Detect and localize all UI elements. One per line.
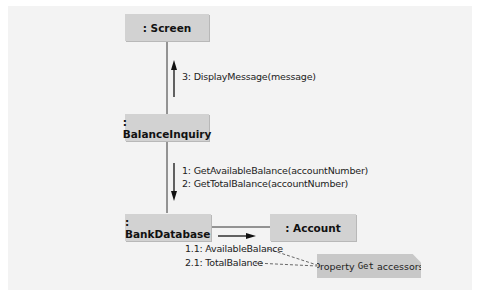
object-balance-inquiry-label: : BalanceInquiry <box>123 116 212 140</box>
message-1-1-label: 1.1: AvailableBalance <box>185 243 283 254</box>
object-balance-inquiry[interactable]: : BalanceInquiry <box>125 114 209 141</box>
note-suffix: accessors <box>377 261 424 272</box>
object-account[interactable]: : Account <box>270 214 356 241</box>
object-bank-database[interactable]: : BankDatabase <box>125 214 211 241</box>
object-bank-database-label: : BankDatabase <box>125 216 211 240</box>
note-prefix: Property <box>314 261 354 272</box>
object-screen[interactable]: : Screen <box>125 14 209 41</box>
object-account-label: : Account <box>285 222 341 234</box>
message-3-label: 3: DisplayMessage(message) <box>182 71 316 82</box>
message-2-1-label: 2.1: TotalBalance <box>185 257 263 268</box>
note-code: Get <box>358 261 374 271</box>
message-1-label: 1: GetAvailableBalance(accountNumber) <box>182 165 368 176</box>
object-screen-label: : Screen <box>143 22 192 34</box>
note-property-get-accessors: Property Get accessors <box>317 254 421 278</box>
message-2-label: 2: GetTotalBalance(accountNumber) <box>182 178 348 189</box>
